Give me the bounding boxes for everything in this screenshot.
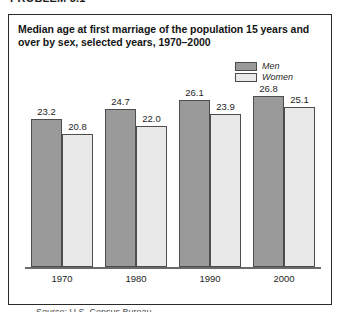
bar-pair-1990: 26.1 23.9	[179, 75, 241, 267]
bar-value-women-1980: 22.0	[142, 113, 161, 124]
plot-area: 23.2 20.8 24.7 22.0	[9, 15, 331, 304]
bar-groups: 23.2 20.8 24.7 22.0	[25, 75, 321, 267]
bar-value-men-1970: 23.2	[37, 106, 56, 117]
bar-women-2000: 25.1	[284, 107, 315, 267]
x-axis-labels: 1970 1980 1990 2000	[25, 273, 321, 284]
bar-women-1990: 23.9	[210, 114, 241, 267]
x-tick-label-1970: 1970	[30, 273, 94, 284]
clipped-source-note: Source: U.S. Census Bureau	[36, 307, 316, 312]
bar-value-women-1970: 20.8	[68, 121, 87, 132]
x-tick-label-1990: 1990	[178, 273, 242, 284]
bar-group-1980: 24.7 22.0	[105, 75, 167, 267]
bar-value-women-2000: 25.1	[290, 94, 309, 105]
bar-value-men-2000: 26.8	[259, 83, 278, 94]
x-axis-line	[25, 267, 321, 269]
x-tick-label-1980: 1980	[104, 273, 168, 284]
clipped-problem-heading: PROBLEM 5.1	[10, 0, 130, 4]
bar-pair-2000: 26.8 25.1	[253, 75, 315, 267]
bar-pair-1980: 24.7 22.0	[105, 75, 167, 267]
bar-women-1980: 22.0	[136, 126, 167, 267]
bar-women-1970: 20.8	[62, 134, 93, 267]
bar-value-men-1990: 26.1	[185, 87, 204, 98]
bar-group-2000: 26.8 25.1	[253, 75, 315, 267]
bar-group-1970: 23.2 20.8	[31, 75, 93, 267]
screenshot-page: PROBLEM 5.1 Median age at first marriage…	[0, 0, 346, 312]
x-tick-label-2000: 2000	[252, 273, 316, 284]
bar-group-1990: 26.1 23.9	[179, 75, 241, 267]
bar-men-2000: 26.8	[253, 96, 284, 267]
bar-pair-1970: 23.2 20.8	[31, 75, 93, 267]
figure-frame: Median age at first marriage of the popu…	[8, 14, 332, 305]
bar-men-1980: 24.7	[105, 109, 136, 267]
bar-men-1970: 23.2	[31, 119, 62, 267]
bar-value-women-1990: 23.9	[216, 101, 235, 112]
bar-men-1990: 26.1	[179, 100, 210, 267]
bar-value-men-1980: 24.7	[111, 96, 130, 107]
